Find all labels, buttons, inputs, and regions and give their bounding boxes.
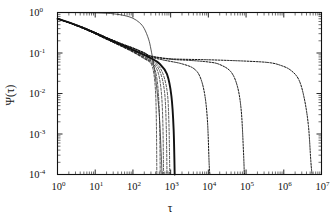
- curves-group: [58, 13, 313, 175]
- data-series-curve: [58, 19, 157, 175]
- y-tick-label: 10-4: [29, 168, 46, 180]
- figure-container: 100101102103104105106107 10010-110-210-3…: [0, 0, 335, 219]
- x-tick-label: 105: [240, 180, 255, 192]
- x-tick-label: 107: [316, 180, 331, 192]
- y-axis-title: Ψ(τ): [4, 84, 17, 105]
- x-tick-label: 106: [278, 180, 293, 192]
- x-tick-label: 104: [202, 180, 217, 192]
- log-log-plot: 100101102103104105106107 10010-110-210-3…: [0, 0, 335, 219]
- x-tick-label: 102: [127, 180, 142, 192]
- data-series-curve: [58, 19, 161, 175]
- axes-frame: [58, 13, 322, 175]
- x-tick-label: 101: [89, 180, 104, 192]
- data-series-curve: [58, 19, 175, 175]
- data-series-curve: [58, 19, 313, 175]
- data-series-curve: [58, 19, 210, 175]
- y-tick-label: 10-1: [29, 47, 46, 59]
- data-series-curve: [58, 13, 163, 175]
- x-tick-label: 100: [52, 180, 67, 192]
- x-axis-title: τ: [168, 202, 173, 214]
- plot-frame: [58, 13, 322, 175]
- data-series-curve: [58, 19, 167, 175]
- data-series-curve: [58, 19, 245, 175]
- x-tick-label: 103: [165, 180, 180, 192]
- y-tick-label: 10-3: [29, 128, 46, 140]
- x-tick-labels: 100101102103104105106107: [52, 180, 331, 192]
- tick-marks-group: [58, 13, 322, 175]
- y-tick-label: 100: [29, 6, 44, 18]
- data-series-curve: [58, 19, 164, 175]
- y-tick-label: 10-2: [29, 87, 46, 99]
- y-tick-labels: 10010-110-210-310-4: [29, 6, 46, 180]
